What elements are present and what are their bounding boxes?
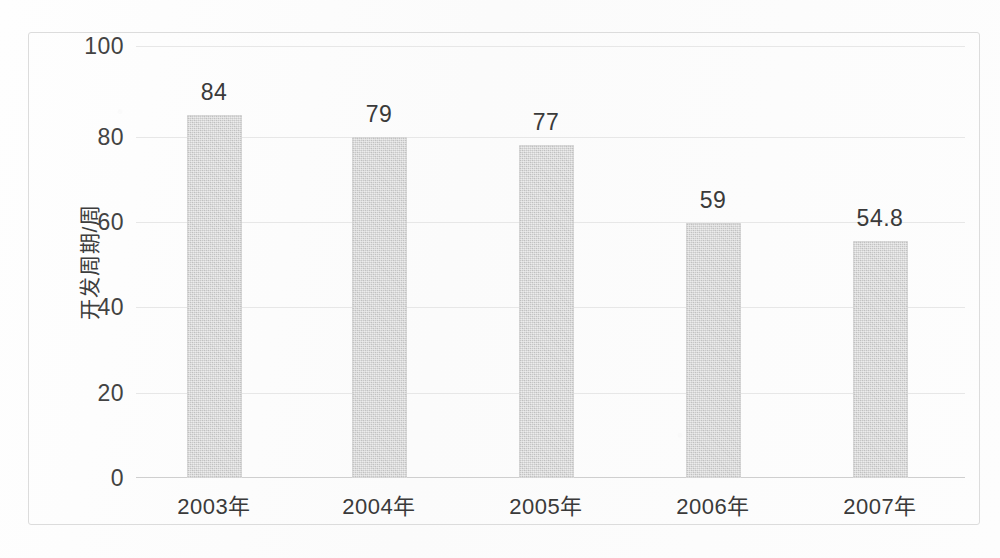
value-label-2006年: 59 xyxy=(700,187,727,214)
x-tick-label-2004年: 2004年 xyxy=(342,488,415,520)
value-label-2007年: 54.8 xyxy=(857,205,904,232)
value-label-2003年: 84 xyxy=(201,79,228,106)
x-tick-label-2006年: 2006年 xyxy=(676,488,749,520)
y-tick-label-0: 0 xyxy=(111,465,124,492)
bar-2005年 xyxy=(519,145,574,478)
y-tick-label-80: 80 xyxy=(97,124,124,151)
bar-2003年 xyxy=(187,115,242,478)
y-tick-label-60: 60 xyxy=(97,209,124,236)
gridline-80 xyxy=(136,137,965,138)
y-tick-label-100: 100 xyxy=(84,33,124,60)
x-tick-label-2005年: 2005年 xyxy=(509,488,582,520)
gridline-100 xyxy=(136,46,965,47)
value-label-2005年: 77 xyxy=(533,109,560,136)
y-tick-label-40: 40 xyxy=(97,294,124,321)
y-tick-label-20: 20 xyxy=(97,380,124,407)
bar-2006年 xyxy=(686,223,741,478)
value-label-2004年: 79 xyxy=(366,101,393,128)
x-tick-label-2007年: 2007年 xyxy=(843,488,916,520)
x-tick-label-2003年: 2003年 xyxy=(177,488,250,520)
y-axis-tick-labels: 100 80 60 40 20 0 xyxy=(60,0,128,558)
bar-2004年 xyxy=(352,137,407,478)
bar-chart-figure: 开发周期/周 100 80 60 40 20 0 8479775954.8 20… xyxy=(0,0,1000,558)
bar-2007年 xyxy=(853,241,908,478)
